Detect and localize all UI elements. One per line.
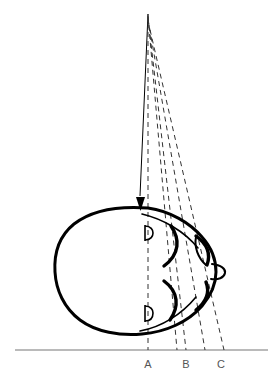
- ear-upper-icon: [145, 226, 153, 240]
- axis-label-b: B: [176, 358, 196, 370]
- diagram-canvas: A B C: [0, 0, 280, 384]
- cheek-arc-lower: [164, 281, 176, 320]
- ray-dashed-2: [148, 16, 177, 350]
- diagram-svg: [0, 0, 280, 384]
- ray-dashed-b: [148, 17, 186, 350]
- ray-a-solid: [136, 14, 148, 211]
- nose-icon: [211, 264, 225, 279]
- cheek-arc-upper: [164, 226, 177, 266]
- ray-bundle-dashed: [148, 14, 224, 350]
- axis-label-a: A: [138, 358, 158, 370]
- jaw-line: [142, 214, 198, 248]
- axis-label-c: C: [211, 358, 231, 370]
- ear-lower-icon: [145, 306, 153, 321]
- ray-dashed-c: [148, 21, 224, 350]
